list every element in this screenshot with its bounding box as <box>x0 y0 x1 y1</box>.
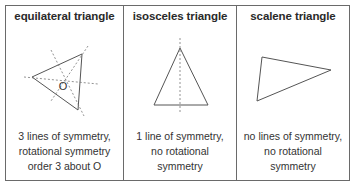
caption-line: no lines of symmetry, <box>237 129 349 144</box>
column-header: isosceles triangle <box>124 10 236 22</box>
center-label: O <box>59 80 68 92</box>
column-isosceles: isosceles triangle 1 line of symmetry, n… <box>123 6 236 180</box>
caption-line: no rotational <box>237 144 349 159</box>
equilateral-triangle-icon: O <box>6 28 123 123</box>
column-caption: 1 line of symmetry, no rotational symmet… <box>124 129 236 174</box>
caption-line: symmetry <box>124 159 236 174</box>
column-caption: no lines of symmetry, no rotational symm… <box>237 129 349 174</box>
column-header: equilateral triangle <box>6 10 123 22</box>
triangle-symmetry-table: equilateral triangle O 3 lines of symmet… <box>5 5 350 181</box>
scalene-triangle-icon <box>237 28 350 123</box>
column-caption: 3 lines of symmetry, rotational symmetry… <box>6 129 123 174</box>
caption-line: order 3 about O <box>6 159 123 174</box>
caption-line: rotational symmetry <box>6 144 123 159</box>
column-equilateral: equilateral triangle O 3 lines of symmet… <box>6 6 123 180</box>
caption-line: 1 line of symmetry, <box>124 129 236 144</box>
caption-line: symmetry <box>237 159 349 174</box>
caption-line: no rotational <box>124 144 236 159</box>
column-scalene: scalene triangle no lines of symmetry, n… <box>236 6 349 180</box>
caption-line: 3 lines of symmetry, <box>6 129 123 144</box>
isosceles-triangle-icon <box>124 28 237 123</box>
column-header: scalene triangle <box>237 10 349 22</box>
